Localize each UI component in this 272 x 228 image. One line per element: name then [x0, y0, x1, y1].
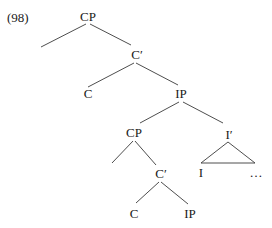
- node-root-cp: CP: [80, 9, 96, 24]
- node-root-cbar: C′: [131, 47, 143, 62]
- node-root-c: C: [84, 86, 93, 101]
- branch-root-cp-cbar: [90, 24, 131, 45]
- example-number: (98): [7, 10, 29, 25]
- branch-ip-cp: [140, 102, 179, 123]
- branch-cbar-ip: [136, 63, 178, 85]
- branch-spec-cp-spec: [112, 141, 133, 163]
- node-ip: IP: [175, 86, 187, 101]
- branch-ip-ibar: [183, 102, 223, 123]
- node-ibar: I′: [225, 127, 232, 142]
- branch-spec-cbar-ip: [161, 182, 188, 204]
- node-i-head: I: [199, 165, 203, 180]
- node-spec-c: C: [130, 206, 139, 221]
- node-i-rest: …: [250, 165, 263, 180]
- branch-spec-cbar-c: [136, 182, 159, 203]
- node-spec-ip: IP: [184, 206, 196, 221]
- syntax-tree-diagram: (98) CP C′ C IP CP I′ I … C′ C IP: [0, 0, 272, 228]
- branch-spec-cp-cbar: [135, 141, 156, 165]
- node-spec-cp: CP: [126, 125, 142, 140]
- triangle-ibar: [201, 142, 255, 163]
- branch-root-cp-spec: [41, 24, 86, 47]
- node-spec-cbar: C′: [155, 166, 167, 181]
- branch-cbar-c: [88, 63, 134, 87]
